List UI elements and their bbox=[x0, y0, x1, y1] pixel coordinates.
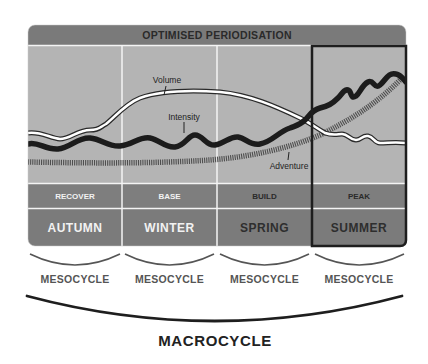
intensity-label: Intensity bbox=[168, 112, 200, 122]
mesocycle-braces bbox=[30, 254, 404, 265]
periodisation-diagram: OPTIMISED PERIODISATION Volume Intensity… bbox=[0, 0, 428, 364]
panel bbox=[28, 25, 406, 246]
phase-label-recover: RECOVER bbox=[55, 192, 95, 201]
macrocycle-brace bbox=[27, 296, 402, 321]
season-label-spring: SPRING bbox=[240, 221, 289, 235]
phase-label-build: BUILD bbox=[252, 192, 277, 201]
mesocycle-label: MESOCYCLE bbox=[324, 273, 393, 285]
phase-label-peak: PEAK bbox=[348, 192, 370, 201]
season-label-summer: SUMMER bbox=[331, 221, 387, 235]
phase-label-base: BASE bbox=[158, 192, 181, 201]
adventure-label: Adventure bbox=[270, 161, 309, 171]
mesocycle-label: MESOCYCLE bbox=[40, 273, 109, 285]
macrocycle-label: MACROCYCLE bbox=[158, 332, 272, 349]
mesocycle-label: MESOCYCLE bbox=[135, 273, 204, 285]
mesocycle-label: MESOCYCLE bbox=[230, 273, 299, 285]
season-label-winter: WINTER bbox=[144, 221, 194, 235]
volume-label: Volume bbox=[153, 75, 182, 85]
season-label-autumn: AUTUMN bbox=[48, 221, 103, 235]
diagram-title: OPTIMISED PERIODISATION bbox=[142, 29, 292, 41]
